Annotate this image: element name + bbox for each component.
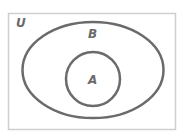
set-a-label: A (87, 73, 97, 87)
venn-diagram: U B A (0, 0, 185, 136)
set-b-label: B (88, 27, 97, 41)
universe-label: U (16, 16, 26, 30)
